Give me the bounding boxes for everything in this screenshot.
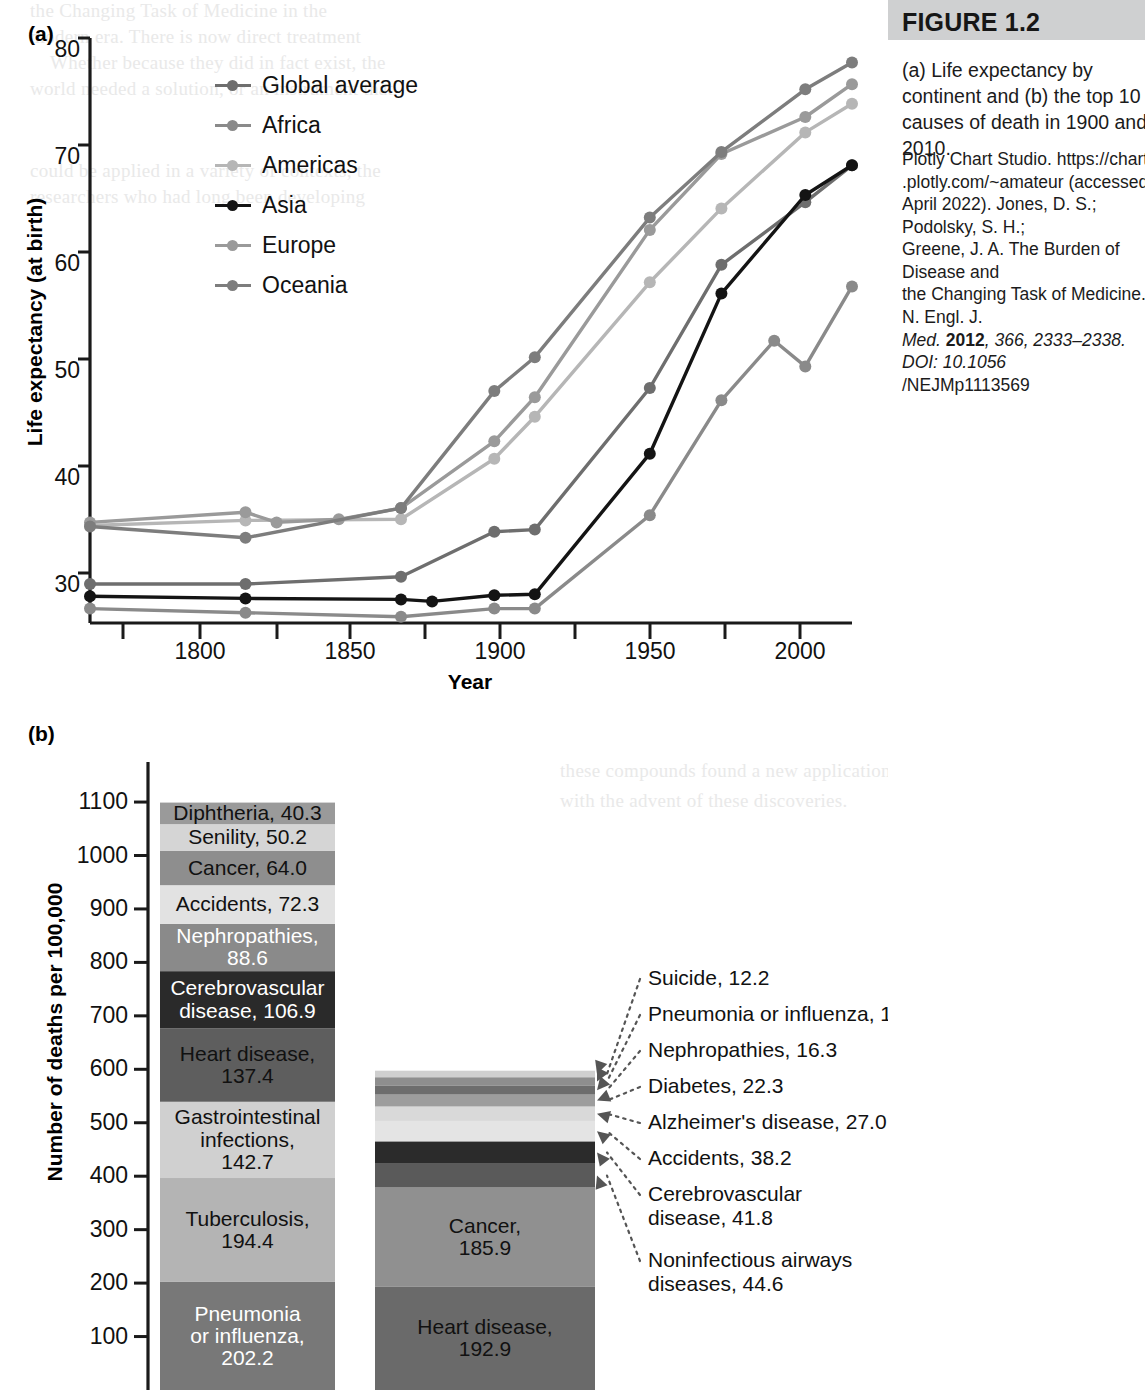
data-point (240, 607, 252, 619)
data-point (395, 502, 407, 514)
data-point (715, 288, 727, 300)
annotation-leader-line (607, 1131, 640, 1159)
data-point (715, 202, 727, 214)
data-point (529, 603, 541, 615)
data-point (240, 578, 252, 590)
data-point (644, 276, 656, 288)
annotation-label: Suicide, 12.2 (648, 966, 769, 990)
data-point (488, 589, 500, 601)
legend-item-africa[interactable]: Africa (215, 112, 321, 139)
annotation-label: Cerebrovascular disease, 41.8 (648, 1182, 802, 1229)
figure-source-citation: Plotly Chart Studio. https://chart .plot… (902, 148, 1145, 396)
bar-segment-label: Cancer, 185.9 (375, 1188, 595, 1287)
annotation-leader-line (607, 1015, 640, 1082)
bar-segment-label: Heart disease, 137.4 (160, 1028, 335, 1101)
annotation-arrowhead (597, 1111, 611, 1123)
source-line: /NEJMp1113569 (902, 375, 1030, 395)
data-point (799, 83, 811, 95)
line-series-oceania (90, 63, 852, 538)
data-point (768, 335, 780, 347)
source-line: Greene, J. A. The Burden of Disease and (902, 239, 1120, 282)
data-point (644, 212, 656, 224)
source-year: 2012 (946, 330, 985, 350)
annotation-leader-line (607, 1087, 640, 1101)
annotation-leader-line (607, 979, 640, 1074)
data-point (529, 524, 541, 536)
annotation-label: Noninfectious airways diseases, 44.6 (648, 1248, 852, 1295)
y-tick-label: 800 (52, 948, 128, 975)
source-line: April 2022). Jones, D. S.; Podolsky, S. … (902, 194, 1097, 237)
y-tick-label: 900 (52, 895, 128, 922)
bar-segment-label: Heart disease, 192.9 (375, 1287, 595, 1390)
panel-a-plot-area (0, 10, 860, 650)
data-point (271, 516, 283, 528)
data-point (488, 526, 500, 538)
legend-item-europe[interactable]: Europe (215, 232, 336, 259)
line-series-africa (90, 286, 852, 616)
bar-segment-label: Accidents, 72.3 (160, 885, 335, 924)
legend-swatch-global-average (215, 84, 251, 87)
data-point (799, 126, 811, 138)
annotation-arrowhead (597, 1153, 610, 1167)
source-journal: Med. (902, 330, 941, 350)
y-tick-label: 300 (52, 1216, 128, 1243)
data-point (846, 78, 858, 90)
data-point (715, 394, 727, 406)
data-point (426, 595, 438, 607)
data-point (715, 259, 727, 271)
data-point (84, 590, 96, 602)
y-tick-label: 700 (52, 1002, 128, 1029)
panel-a-life-expectancy-chart: (a) Life expectancy (at birth) Year 80 7… (0, 10, 860, 710)
data-point (395, 593, 407, 605)
annotation-label: Alzheimer's disease, 27.0 (648, 1110, 887, 1134)
annotation-label: Accidents, 38.2 (648, 1146, 792, 1170)
bar-segment-label: Diphtheria, 40.3 (160, 803, 335, 825)
bar-segment-label: Pneumonia or influenza, 202.2 (160, 1282, 335, 1390)
bar-segment[interactable] (375, 1077, 595, 1086)
bar-segment[interactable] (375, 1086, 595, 1095)
bar-segment[interactable] (375, 1071, 595, 1078)
legend-label: Global average (262, 72, 418, 99)
legend-label: Oceania (262, 272, 348, 299)
data-point (395, 513, 407, 525)
annotation-leader-line (607, 1114, 640, 1123)
bar-segment-label: Nephropathies, 88.6 (160, 924, 335, 971)
legend-label: Africa (262, 112, 321, 139)
legend-item-oceania[interactable]: Oceania (215, 272, 348, 299)
panel-a-x-axis-label: Year (200, 670, 740, 694)
legend-swatch-europe (215, 244, 251, 247)
legend-swatch-africa (215, 124, 251, 127)
figure-caption: (a) Life expectancy by continent and (b)… (902, 58, 1145, 162)
data-point (84, 521, 96, 533)
source-line: Plotly Chart Studio. https://chart (902, 149, 1145, 169)
y-tick-label: 400 (52, 1162, 128, 1189)
legend-swatch-asia (215, 204, 251, 207)
bar-segment[interactable] (375, 1121, 595, 1141)
source-line: the Changing Task of Medicine. N. Engl. … (902, 284, 1145, 327)
data-point (644, 509, 656, 521)
data-point (488, 453, 500, 465)
y-tick-label: 500 (52, 1109, 128, 1136)
bar-segment[interactable] (375, 1095, 595, 1107)
y-tick-label: 100 (52, 1323, 128, 1350)
data-point (846, 159, 858, 171)
line-series-americas (90, 104, 852, 526)
annotation-label: Pneumonia or influenza, 16.2 (648, 1002, 921, 1026)
legend-swatch-americas (215, 164, 251, 167)
legend-item-global-average[interactable]: Global average (215, 72, 418, 99)
bar-segment[interactable] (375, 1141, 595, 1163)
line-series-europe (90, 84, 852, 522)
data-point (395, 611, 407, 623)
data-point (846, 280, 858, 292)
y-tick-label: 200 (52, 1269, 128, 1296)
bar-segment[interactable] (375, 1164, 595, 1188)
legend-item-americas[interactable]: Americas (215, 152, 358, 179)
annotation-arrowhead (597, 1090, 611, 1102)
data-point (799, 189, 811, 201)
bar-segment-label: Senility, 50.2 (160, 824, 335, 851)
legend-swatch-oceania (215, 284, 251, 287)
data-point (84, 578, 96, 590)
bar-segment[interactable] (375, 1107, 595, 1121)
legend-label: Americas (262, 152, 358, 179)
legend-item-asia[interactable]: Asia (215, 192, 307, 219)
